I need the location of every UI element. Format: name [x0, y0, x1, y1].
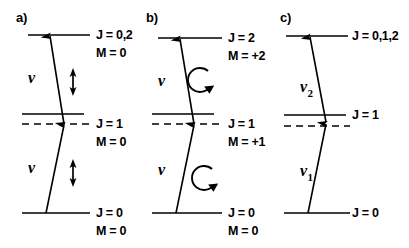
transition-arrow-b-upper-photon: [180, 39, 194, 124]
transition-arrow-a-upper-photon: [50, 36, 64, 124]
state-label-a-intermediate-virtual-1: M = 0: [96, 135, 126, 149]
state-label-c-intermediate-real-0: J = 1: [352, 108, 379, 122]
polarization-linear-a-1: [70, 159, 77, 187]
photon-label-c-upper-photon: ν2: [300, 78, 314, 99]
photon-label-symbol: ν: [28, 159, 36, 176]
polarization-circle-arrowhead: [204, 85, 214, 93]
panel-b: b)J = 2M = +2J = 1M = +1J = 0M = 0νν: [146, 10, 265, 238]
transition-arrow-a-lower-photon: [46, 125, 64, 213]
state-label-b-intermediate-virtual-0: J = 1: [228, 117, 255, 131]
state-label-a-upper-1: M = 0: [96, 46, 126, 60]
figure-canvas: a)J = 0,2M = 0J = 1M = 0J = 0M = 0ννb)J …: [0, 0, 409, 248]
photon-label-symbol: ν: [158, 161, 166, 178]
photon-label-c-lower-photon: ν1: [300, 162, 313, 183]
panel-label-c: c): [280, 10, 291, 25]
panel-label-a: a): [16, 10, 27, 25]
transition-arrow-c-lower-photon: [308, 124, 326, 213]
polarization-circular-b-1: [192, 166, 218, 192]
state-label-a-upper-0: J = 0,2: [96, 28, 133, 42]
panel-a: a)J = 0,2M = 0J = 1M = 0J = 0M = 0νν: [16, 10, 133, 238]
photon-label-b-lower-photon: ν: [158, 161, 166, 178]
state-label-c-upper-0: J = 0,1,2: [352, 29, 399, 43]
panels-group: a)J = 0,2M = 0J = 1M = 0J = 0M = 0ννb)J …: [16, 10, 399, 238]
state-label-b-upper-0: J = 2: [228, 31, 255, 45]
transition-arrow-b-lower-photon: [176, 125, 194, 213]
transition-arrow-c-upper-photon: [310, 37, 326, 122]
state-label-b-intermediate-virtual-1: M = +1: [228, 135, 265, 149]
state-label-b-ground-1: M = 0: [228, 224, 258, 238]
state-label-a-ground-0: J = 0: [96, 206, 123, 220]
photon-label-symbol: ν: [28, 69, 36, 86]
state-label-c-ground-0: J = 0: [352, 206, 379, 220]
state-label-a-ground-1: M = 0: [96, 224, 126, 238]
panel-label-b: b): [146, 10, 158, 25]
polarization-circle-arrowhead: [208, 183, 218, 191]
state-label-b-ground-0: J = 0: [228, 206, 255, 220]
polarization-circular-b-0: [188, 68, 214, 94]
state-label-b-upper-1: M = +2: [228, 49, 265, 63]
polarization-linear-a-0: [70, 68, 77, 96]
photon-label-b-upper-photon: ν: [158, 72, 166, 89]
photon-label-symbol: ν: [158, 72, 166, 89]
photon-label-a-lower-photon: ν: [28, 159, 36, 176]
state-label-a-intermediate-virtual-0: J = 1: [96, 117, 123, 131]
photon-label-subscript: 1: [308, 171, 314, 183]
photon-label-subscript: 2: [308, 87, 314, 99]
panel-c: c)J = 0,1,2J = 1J = 0ν2ν1: [280, 10, 399, 220]
photon-label-a-upper-photon: ν: [28, 69, 36, 86]
energy-level-diagram-figure: a)J = 0,2M = 0J = 1M = 0J = 0M = 0ννb)J …: [0, 0, 409, 248]
